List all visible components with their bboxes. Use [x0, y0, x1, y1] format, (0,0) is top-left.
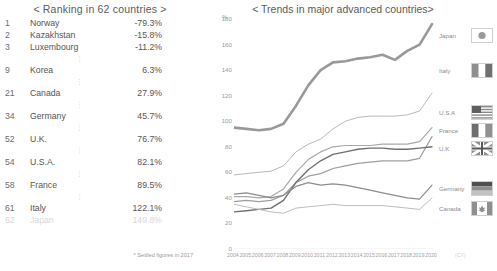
ranking-gap-dots: ⋮	[0, 77, 200, 88]
ranking-gap-dots: ⋮	[0, 123, 200, 134]
y-axis-ticks: 020406080100120140160180	[200, 0, 234, 271]
usa-flag-icon	[471, 105, 493, 120]
x-tick-label: 2013	[338, 252, 350, 258]
ranking-row: 62Japan149.8%	[0, 215, 200, 227]
series-label-canada: Canada	[439, 205, 461, 212]
ranking-rank: 62	[5, 215, 21, 225]
series-label-italy: Italy	[439, 67, 450, 74]
series-label-japan: Japan	[439, 32, 456, 39]
x-tick-label: 2008	[277, 252, 289, 258]
y-tick-label: 20	[225, 219, 232, 226]
ranking-country: U.S.A.	[30, 157, 55, 167]
ranking-gap-dots: ⋮	[0, 146, 200, 157]
x-tick-label: 2015	[363, 252, 375, 258]
ranking-panel-title: < Ranking in 62 countries >	[0, 3, 200, 15]
x-tick-label: 2009	[289, 252, 301, 258]
infographic-root: < Ranking in 62 countries > 1Norway-79.3…	[0, 0, 497, 271]
italy-flag-icon	[471, 63, 493, 78]
x-tick-label: 2012	[326, 252, 338, 258]
ranking-panel: < Ranking in 62 countries > 1Norway-79.3…	[0, 0, 200, 271]
ranking-rank: 21	[5, 88, 21, 98]
chart-plot-area	[234, 19, 434, 249]
y-tick-label: 100	[222, 117, 232, 124]
x-tick-label: 2018	[400, 252, 412, 258]
ranking-row: 34Germany45.7%	[0, 111, 200, 123]
ranking-country: Italy	[30, 203, 46, 213]
series-end-labels: JapanItalyU.S.AFranceU.KGermanyCanada	[434, 0, 497, 271]
x-tick-label: 2017	[388, 252, 400, 258]
ranking-row: 52U.K.76.7%	[0, 134, 200, 146]
ranking-country: France	[30, 180, 57, 190]
japan-flag-icon	[471, 28, 493, 43]
x-tick-label: 2016	[376, 252, 388, 258]
y-tick-label: 40	[225, 194, 232, 201]
ranking-country: Kazakhstan	[30, 30, 75, 40]
ranking-value: 82.1%	[96, 157, 162, 167]
ranking-country: Luxembourg	[30, 42, 78, 52]
chart-title: < Trends in major advanced countries>	[218, 3, 468, 15]
series-line	[234, 24, 432, 130]
ranking-row: 54U.S.A.82.1%	[0, 157, 200, 169]
x-tick-label: 2019	[413, 252, 425, 258]
ranking-value: 45.7%	[96, 111, 162, 121]
ranking-row: 1Norway-79.3%	[0, 18, 200, 30]
ranking-value: 76.7%	[96, 134, 162, 144]
ranking-country: Norway	[30, 18, 59, 28]
ranking-country: Japan	[30, 215, 54, 225]
ranking-rank: 54	[5, 157, 21, 167]
ranking-country: U.K.	[30, 134, 47, 144]
ranking-row: 58France89.5%	[0, 180, 200, 192]
trends-chart-panel: < Trends in major advanced countries> % …	[200, 0, 497, 271]
ranking-rank: 58	[5, 180, 21, 190]
y-tick-label: 0	[229, 245, 232, 252]
y-tick-label: 160	[222, 41, 232, 48]
x-tick-label: 2006	[252, 252, 264, 258]
ranking-country: Canada	[30, 88, 60, 98]
ranking-rank: 52	[5, 134, 21, 144]
ranking-rank: 3	[5, 42, 21, 52]
ranking-rank: 2	[5, 30, 21, 40]
series-line	[234, 93, 432, 175]
y-tick-label: 80	[225, 143, 232, 150]
ranking-rank: 61	[5, 203, 21, 213]
x-tick-label: 2007	[264, 252, 276, 258]
y-tick-label: 120	[222, 92, 232, 99]
ranking-rank: 9	[5, 65, 21, 75]
ranking-gap-dots: ⋮	[0, 100, 200, 111]
ranking-value: 6.3%	[96, 65, 162, 75]
ranking-value: 89.5%	[96, 180, 162, 190]
x-tick-label: 2014	[351, 252, 363, 258]
ranking-table: 1Norway-79.3%2Kazakhstan-15.8%3Luxembour…	[0, 18, 200, 227]
canada-flag-icon	[471, 201, 493, 216]
ranking-value: 149.8%	[96, 215, 162, 225]
x-tick-label: 2011	[314, 252, 325, 258]
ranking-row: 2Kazakhstan-15.8%	[0, 30, 200, 42]
ranking-gap-dots: ⋮	[0, 54, 200, 65]
ranking-gap-dots: ⋮	[0, 169, 200, 180]
series-line	[234, 147, 432, 212]
series-label-uk: U.K	[439, 145, 449, 152]
uk-flag-icon	[471, 141, 493, 156]
ranking-value: -11.2%	[96, 42, 162, 52]
ranking-gap-dots: ⋮	[0, 192, 200, 203]
y-tick-label: 180	[222, 15, 232, 22]
france-flag-icon	[471, 123, 493, 138]
ranking-country: Korea	[30, 65, 53, 75]
series-label-france: France	[439, 127, 458, 134]
ranking-value: 122.1%	[96, 203, 162, 213]
ranking-row: 3Luxembourg-11.2%	[0, 42, 200, 54]
series-label-germany: Germany	[439, 185, 464, 192]
series-line	[234, 198, 432, 213]
ranking-value: 27.9%	[96, 88, 162, 98]
ranking-rank: 34	[5, 111, 21, 121]
series-lines	[234, 19, 434, 249]
series-line	[234, 128, 432, 198]
x-tick-label: 2010	[301, 252, 313, 258]
ranking-row: 9Korea6.3%	[0, 65, 200, 77]
ranking-row: 61Italy122.1%	[0, 203, 200, 215]
ranking-rank: 1	[5, 18, 21, 28]
ranking-country: Germany	[30, 111, 66, 121]
y-tick-label: 140	[222, 66, 232, 73]
y-tick-label: 60	[225, 168, 232, 175]
ranking-value: -79.3%	[96, 18, 162, 28]
